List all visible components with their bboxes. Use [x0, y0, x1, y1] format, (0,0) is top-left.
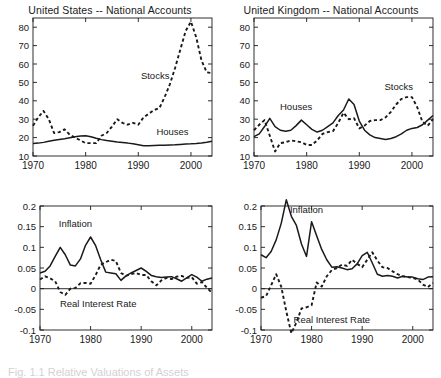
svg-text:1980: 1980 [79, 334, 102, 345]
series-annotation: Stocks [141, 70, 170, 81]
series-annotation: Houses [280, 101, 312, 112]
plot-us-inflation-real-rate: -0.1-0.0500.050.10.150.21970198019902000… [0, 196, 220, 366]
plot-uk-national-accounts: 10203040506070801970198019902000StocksHo… [221, 4, 441, 190]
series-annotation: Houses [156, 126, 188, 137]
panel-us-inflation: -0.1-0.0500.050.10.150.21970198019902000… [0, 196, 220, 366]
series-annotation: Real Interest Rate [60, 298, 137, 309]
svg-text:40: 40 [18, 95, 29, 106]
svg-text:0: 0 [31, 283, 36, 294]
svg-text:0.2: 0.2 [244, 201, 257, 212]
svg-text:60: 60 [239, 59, 250, 70]
svg-text:80: 80 [18, 22, 29, 33]
svg-text:1990: 1990 [348, 160, 371, 171]
svg-text:20: 20 [18, 132, 29, 143]
svg-text:0.15: 0.15 [239, 221, 258, 232]
panel-title-us: United States -- National Accounts [0, 4, 220, 16]
svg-text:-0.05: -0.05 [235, 304, 257, 315]
panel-uk-inflation: -0.1-0.0500.050.10.150.21970198019902000… [221, 196, 441, 366]
svg-text:1970: 1970 [29, 334, 52, 345]
plot-us-national-accounts: 10203040506070801970198019902000StocksHo… [0, 4, 220, 190]
svg-text:50: 50 [239, 77, 250, 88]
svg-text:-0.05: -0.05 [14, 304, 36, 315]
svg-text:1970: 1970 [22, 160, 45, 171]
svg-text:1970: 1970 [243, 160, 266, 171]
svg-text:30: 30 [239, 114, 250, 125]
panel-title-uk: United Kingdom -- National Accounts [221, 4, 441, 16]
svg-text:80: 80 [239, 22, 250, 33]
svg-text:1980: 1980 [75, 160, 98, 171]
plot-uk-inflation-real-rate: -0.1-0.0500.050.10.150.21970198019902000… [221, 196, 441, 366]
svg-text:2000: 2000 [401, 160, 424, 171]
series-annotation: Real Interest Rate [294, 314, 371, 325]
svg-text:60: 60 [18, 59, 29, 70]
svg-text:1980: 1980 [296, 160, 319, 171]
svg-text:2000: 2000 [181, 334, 204, 345]
svg-text:0.15: 0.15 [18, 221, 37, 232]
svg-text:50: 50 [18, 77, 29, 88]
series-annotation: Inflation [59, 218, 92, 229]
svg-text:20: 20 [239, 132, 250, 143]
svg-text:40: 40 [239, 95, 250, 106]
figure-caption: Fig. 1.1 Relative Valuations of Assets [8, 366, 438, 378]
svg-text:0.05: 0.05 [239, 263, 258, 274]
svg-text:70: 70 [239, 40, 250, 51]
svg-text:0: 0 [252, 283, 257, 294]
svg-text:1990: 1990 [351, 334, 374, 345]
svg-text:0.1: 0.1 [244, 242, 257, 253]
svg-text:2000: 2000 [180, 160, 203, 171]
svg-text:0.1: 0.1 [23, 242, 36, 253]
svg-text:70: 70 [18, 40, 29, 51]
svg-text:1990: 1990 [127, 160, 150, 171]
svg-text:0.2: 0.2 [23, 201, 36, 212]
svg-text:2000: 2000 [402, 334, 425, 345]
series-annotation: Stocks [385, 81, 414, 92]
svg-text:1990: 1990 [130, 334, 153, 345]
panel-us-national-accounts: United States -- National Accounts 10203… [0, 4, 220, 190]
svg-text:0.05: 0.05 [18, 263, 37, 274]
svg-text:30: 30 [18, 114, 29, 125]
svg-text:1980: 1980 [300, 334, 323, 345]
series-annotation: Inflation [290, 204, 323, 215]
panel-uk-national-accounts: United Kingdom -- National Accounts 1020… [221, 4, 441, 190]
svg-text:1970: 1970 [250, 334, 273, 345]
